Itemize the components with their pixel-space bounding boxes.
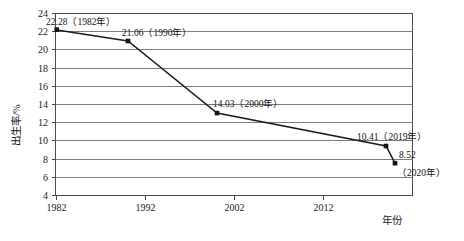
chart-canvas: 24 22 20 18 16 14 12 10 8 6 4 出生率/% 1982… xyxy=(0,0,464,241)
data-point-1982 xyxy=(54,27,59,32)
y-tick-label: 18 xyxy=(38,63,48,74)
y-tick-label: 8 xyxy=(43,154,48,165)
x-tick-label: 2002 xyxy=(225,202,245,213)
y-tick-label: 10 xyxy=(38,135,48,146)
x-tick-label: 1982 xyxy=(47,202,67,213)
y-tick-label: 6 xyxy=(43,172,48,183)
x-axis-title: 年份 xyxy=(382,214,403,226)
y-tick-label: 4 xyxy=(43,190,48,201)
x-tick-label: 1992 xyxy=(136,202,156,213)
data-point-markers xyxy=(54,27,397,165)
y-tick-label: 22 xyxy=(38,26,48,37)
y-tick-label: 16 xyxy=(38,81,48,92)
annotation-2020-year: （2020年） xyxy=(397,167,446,178)
y-tick-label: 12 xyxy=(38,117,48,128)
y-tick-label: 20 xyxy=(38,44,48,55)
data-point-2019 xyxy=(384,144,389,149)
x-axis-tick-labels: 1982 1992 2002 2012 xyxy=(47,202,334,213)
annotation-1982: 22.28（1982年） xyxy=(46,16,116,27)
y-tick-label: 14 xyxy=(38,99,48,110)
x-tick-label: 2012 xyxy=(314,202,334,213)
data-annotations: 22.28（1982年） 21.06（1990年） 14.03（2000年） 1… xyxy=(46,16,446,178)
annotation-2019: 10.41（2019年） xyxy=(357,131,427,142)
data-point-2020 xyxy=(393,161,398,166)
data-point-2000 xyxy=(215,111,220,116)
x-axis-tickmarks xyxy=(57,196,324,200)
y-axis-title: 出生率/% xyxy=(10,104,22,146)
birth-rate-line-chart: 24 22 20 18 16 14 12 10 8 6 4 出生率/% 1982… xyxy=(0,0,464,241)
y-axis-tick-labels: 24 22 20 18 16 14 12 10 8 6 4 xyxy=(38,8,48,201)
annotation-2000: 14.03（2000年） xyxy=(213,98,283,109)
annotation-2020-value: 8.52 xyxy=(399,150,416,160)
annotation-1990: 21.06（1990年） xyxy=(122,27,192,38)
data-point-1990 xyxy=(126,39,131,44)
